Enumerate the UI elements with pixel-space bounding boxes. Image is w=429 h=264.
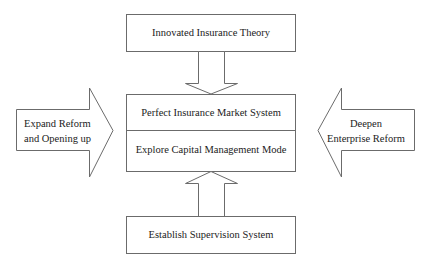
up-arrow-icon — [186, 172, 238, 217]
right-arrow-label-line2: Enterprise Reform — [327, 133, 405, 144]
center-box-upper-label: Perfect Insurance Market System — [141, 107, 281, 118]
center-box: Perfect Insurance Market System Explore … — [127, 95, 296, 172]
right-arrow-label-line1: Deepen — [350, 118, 383, 129]
center-box-lower-label: Explore Capital Management Mode — [136, 144, 287, 155]
bottom-box: Establish Supervision System — [127, 217, 296, 254]
top-box-label: Innovated Insurance Theory — [152, 27, 271, 38]
down-arrow-icon — [186, 52, 238, 95]
left-block-arrow: Expand Reform and Opening up — [17, 88, 114, 177]
bottom-box-label: Establish Supervision System — [149, 229, 274, 240]
top-box: Innovated Insurance Theory — [127, 15, 296, 52]
insurance-reform-diagram: Innovated Insurance Theory Perfect Insur… — [0, 0, 429, 264]
left-arrow-label-line1: Expand Reform — [24, 118, 91, 129]
right-block-arrow: Deepen Enterprise Reform — [318, 88, 415, 177]
left-arrow-label-line2: and Opening up — [24, 133, 91, 144]
